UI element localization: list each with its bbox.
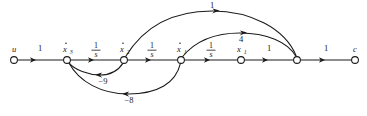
node-n6[interactable]: [294, 57, 301, 64]
edge-weight-xd1-x1-fraction: 1 s: [207, 41, 216, 59]
node-xd2[interactable]: [121, 57, 128, 64]
node-c[interactable]: [352, 57, 359, 64]
node-label-xd1-subscript: 1: [184, 49, 187, 55]
node-u[interactable]: [11, 57, 18, 64]
node-label-xd2-subscript: 2: [127, 49, 130, 55]
node-label-x1-subscript: 1: [244, 49, 247, 55]
node-label-xd3: x: [62, 44, 67, 54]
edge-weight-xd3-xd2-numerator: 1: [94, 41, 98, 50]
flow-graph-canvas: u x 3 x 2 x 1 x 1 c: [0, 0, 367, 116]
edge-weight-u-xd3: 1: [38, 43, 42, 53]
edge-weight-n6-c: 1: [324, 43, 328, 53]
signal-flow-graph-figure: u x 3 x 2 x 1 x 1 c: [0, 0, 367, 116]
arc-weight-feedback-9: −9: [98, 76, 107, 86]
arc-weight-feedforward-1: 1: [210, 0, 214, 10]
node-label-u: u: [12, 44, 16, 54]
node-label-c: c: [353, 44, 357, 54]
node-label-xd1-group: x 1: [176, 42, 187, 55]
edge-weight-xd1-x1-denominator: s: [209, 50, 212, 59]
node-label-xd3-group: x 3: [62, 42, 73, 55]
edge-weight-xd2-xd1-numerator: 1: [150, 41, 154, 50]
edge-weight-x1-n6: 1: [267, 43, 271, 53]
arc-weight-feedback-8: −8: [124, 95, 133, 105]
node-label-xd1: x: [176, 44, 181, 54]
node-xd3[interactable]: [64, 57, 71, 64]
edge-weight-xd3-xd2-fraction: 1 s: [92, 41, 101, 59]
edge-weight-xd2-xd1-denominator: s: [150, 50, 153, 59]
node-label-x1: x: [236, 44, 241, 54]
node-xd1[interactable]: [178, 57, 185, 64]
node-label-group: u x 3 x 2 x 1 x 1 c: [12, 42, 357, 55]
node-label-xd2-group: x 2: [119, 42, 130, 55]
arc-weight-feedforward-4: 4: [239, 34, 244, 44]
node-label-x1-group: x 1: [236, 44, 247, 55]
edge-weight-xd2-xd1-fraction: 1 s: [148, 41, 157, 59]
node-x1[interactable]: [238, 57, 245, 64]
edge-weight-xd3-xd2-denominator: s: [94, 50, 97, 59]
feedback-arc-group: [69, 63, 181, 97]
edge-weight-xd1-x1-numerator: 1: [209, 41, 213, 50]
node-label-xd2: x: [119, 44, 124, 54]
node-label-xd3-subscript: 3: [69, 49, 73, 55]
feedback-arc-8-path: [69, 63, 181, 94]
